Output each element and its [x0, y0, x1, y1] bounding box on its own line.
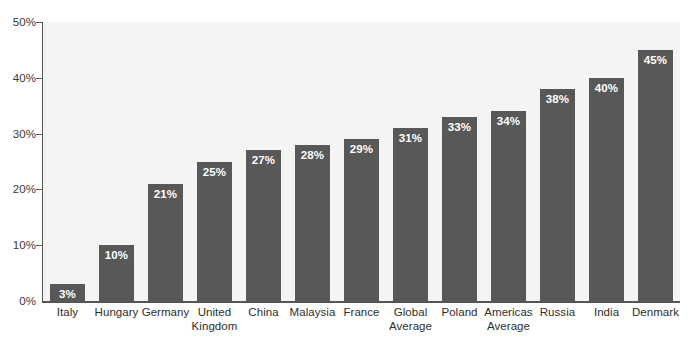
bar: 25%: [197, 162, 232, 302]
y-axis-tick-mark: [36, 22, 43, 23]
bar: 38%: [540, 89, 575, 301]
bar-group: 38%: [540, 22, 575, 301]
bar-group: 31%: [393, 22, 428, 301]
bar: 33%: [442, 117, 477, 301]
bar: 21%: [148, 184, 183, 301]
y-axis-tick-mark: [36, 134, 43, 135]
y-axis-tick-mark: [36, 78, 43, 79]
bar-value-label: 21%: [148, 188, 183, 201]
bar-group: 40%: [589, 22, 624, 301]
bar: 3%: [50, 284, 85, 301]
bar-value-label: 25%: [197, 166, 232, 179]
y-axis-tick-label: 10%: [0, 239, 36, 251]
bar: 10%: [99, 245, 134, 301]
x-axis-category-label-line: Denmark: [623, 305, 688, 319]
bar: 27%: [246, 150, 281, 301]
bar-value-label: 45%: [638, 54, 673, 67]
bar-value-label: 38%: [540, 93, 575, 106]
y-axis-tick-mark: [36, 189, 43, 190]
bar-value-label: 31%: [393, 132, 428, 145]
bar: 29%: [344, 139, 379, 301]
bar-group: 34%: [491, 22, 526, 301]
bar-value-label: 3%: [50, 288, 85, 301]
bar-value-label: 28%: [295, 149, 330, 162]
y-axis: 50%40%30%20%10%0%: [0, 0, 36, 343]
bar-group: 29%: [344, 22, 379, 301]
bar-group: 27%: [246, 22, 281, 301]
x-axis-category-label: Denmark: [623, 305, 688, 319]
bar-group: 10%: [99, 22, 134, 301]
y-axis-tick-mark: [36, 245, 43, 246]
y-axis-tick-label: 20%: [0, 183, 36, 195]
plot-area: 3%10%21%25%27%28%29%31%33%34%38%40%45%: [43, 22, 680, 301]
bar-group: 21%: [148, 22, 183, 301]
x-axis-category-label-line: Kingdom: [182, 319, 247, 333]
y-axis-tick-label: 0%: [0, 295, 36, 307]
bar-group: 33%: [442, 22, 477, 301]
bar-value-label: 33%: [442, 121, 477, 134]
bar-value-label: 10%: [99, 249, 134, 262]
bar-value-label: 34%: [491, 115, 526, 128]
bar: 45%: [638, 50, 673, 301]
bar-value-label: 27%: [246, 154, 281, 167]
y-axis-tick-label: 40%: [0, 72, 36, 84]
y-axis-tick-label: 50%: [0, 16, 36, 28]
bar-group: 25%: [197, 22, 232, 301]
x-axis-category-label-line: Average: [378, 319, 443, 333]
bar-value-label: 29%: [344, 143, 379, 156]
y-axis-tick-label: 30%: [0, 128, 36, 140]
x-axis-category-labels: ItalyHungaryGermanyUnitedKingdomChinaMal…: [43, 305, 680, 343]
bar-group: 28%: [295, 22, 330, 301]
bar: 34%: [491, 111, 526, 301]
x-axis-line: [42, 301, 680, 303]
bar-chart: 50%40%30%20%10%0% 3%10%21%25%27%28%29%31…: [0, 0, 689, 343]
bar-group: 3%: [50, 22, 85, 301]
bar-value-label: 40%: [589, 82, 624, 95]
bar: 40%: [589, 78, 624, 301]
bar-group: 45%: [638, 22, 673, 301]
bar: 31%: [393, 128, 428, 301]
x-axis-category-label-line: Average: [476, 319, 541, 333]
bar: 28%: [295, 145, 330, 301]
